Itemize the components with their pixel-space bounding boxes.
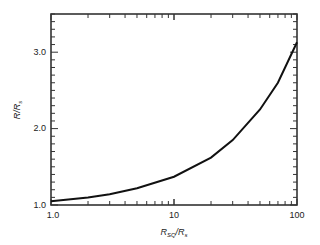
x-axis-label: RSQ/Rs	[160, 227, 187, 238]
data-curve	[51, 42, 297, 201]
x-tick-10: 10	[169, 210, 179, 220]
y-tick-2: 2.0	[33, 123, 46, 133]
y-axis-label: R/Rs	[12, 101, 23, 120]
chart: 3.0 2.0 1.0 1.0 10 100 RSQ/Rs R/Rs	[0, 0, 320, 245]
x-tick-1: 1.0	[47, 210, 60, 220]
x-tick-100: 100	[289, 210, 304, 220]
y-tick-1: 1.0	[33, 200, 46, 210]
y-tick-3: 3.0	[33, 47, 46, 57]
